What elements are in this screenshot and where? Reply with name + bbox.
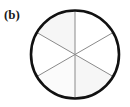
circle-sector-diagram — [0, 0, 130, 107]
figure-panel-b: (b) — [0, 0, 130, 107]
